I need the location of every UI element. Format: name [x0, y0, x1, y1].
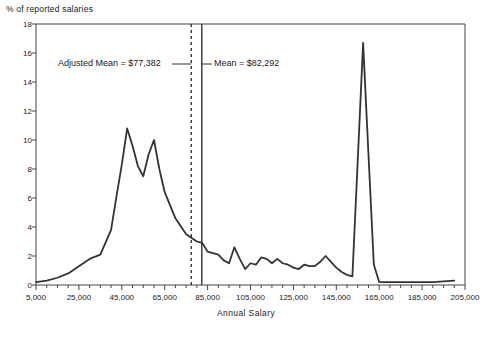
- y-tick-label: 0: [14, 281, 32, 290]
- y-tick-label: 8: [14, 165, 32, 174]
- x-axis-label: Annual Salary: [0, 308, 492, 318]
- x-tick-label: 125,000: [279, 293, 308, 302]
- annotation-adjusted-mean-label: Adjusted Mean = $77,382: [58, 58, 161, 68]
- data-series: [36, 43, 454, 282]
- y-tick-label: 4: [14, 223, 32, 232]
- x-tick-label: 105,000: [236, 293, 265, 302]
- y-tick-label: 12: [14, 107, 32, 116]
- x-tick-label: 85,000: [195, 293, 219, 302]
- y-tick-label: 6: [14, 194, 32, 203]
- x-tick-label: 165,000: [365, 293, 394, 302]
- y-tick-label: 10: [14, 136, 32, 145]
- chart-plot-area: [0, 0, 492, 337]
- y-tick-label: 2: [14, 252, 32, 261]
- y-tick-label: 14: [14, 78, 32, 87]
- x-tick-label: 145,000: [322, 293, 351, 302]
- x-tick-label: 5,000: [26, 293, 46, 302]
- y-tick-label: 16: [14, 49, 32, 58]
- x-tick-label: 205,000: [451, 293, 480, 302]
- x-tick-label: 185,000: [408, 293, 437, 302]
- x-tick-label: 65,000: [152, 293, 176, 302]
- annotation-rules: [172, 24, 212, 285]
- annotation-mean-label: Mean = $82,292: [214, 58, 279, 68]
- chart-figure: % of reported salaries Annual Salary Adj…: [0, 0, 492, 337]
- x-tick-label: 45,000: [110, 293, 134, 302]
- y-axis-label: % of reported salaries: [6, 4, 93, 14]
- x-tick-label: 25,000: [67, 293, 91, 302]
- y-tick-label: 18: [14, 20, 32, 29]
